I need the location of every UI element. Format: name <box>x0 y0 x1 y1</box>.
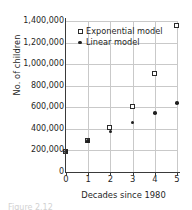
figure-scatter-chart: No. of children 0200,000400,000600,00080… <box>0 0 192 210</box>
y-tick-label: 1,400,000 <box>6 17 64 25</box>
x-tick-label: 0 <box>56 175 76 184</box>
x-tick-mark <box>133 172 134 176</box>
x-tick-mark <box>66 172 67 176</box>
y-tick-label: 600,000 <box>6 103 64 111</box>
data-point-linear <box>175 101 179 105</box>
x-tick-label: 5 <box>167 175 187 184</box>
gridline-horizontal <box>66 21 177 22</box>
gridline-horizontal <box>66 150 177 151</box>
gridline-horizontal <box>66 107 177 108</box>
x-tick-mark <box>88 172 89 176</box>
legend: Exponential model Linear model <box>74 26 163 48</box>
x-tick-label: 1 <box>78 175 98 184</box>
y-axis-line <box>65 18 66 173</box>
gridline-horizontal <box>66 129 177 130</box>
data-point-linear <box>86 139 90 143</box>
open-square-marker-icon <box>74 29 86 34</box>
x-axis-label: Decades since 1980 <box>55 190 192 200</box>
gridline-horizontal <box>66 64 177 65</box>
legend-label-exponential: Exponential model <box>86 26 163 37</box>
gridline-vertical <box>177 21 178 172</box>
data-point-linear <box>153 111 157 115</box>
y-tick-label: 800,000 <box>6 82 64 90</box>
legend-label-linear: Linear model <box>86 37 140 48</box>
x-tick-label: 3 <box>123 175 143 184</box>
data-point-exponential <box>174 23 179 28</box>
data-point-exponential <box>130 104 135 109</box>
y-tick-label: 400,000 <box>6 125 64 133</box>
y-tick-label: 200,000 <box>6 146 64 154</box>
data-point-linear <box>109 130 113 134</box>
legend-item-linear: Linear model <box>74 37 163 48</box>
legend-item-exponential: Exponential model <box>74 26 163 37</box>
data-point-linear <box>131 121 135 125</box>
y-tick-label: 1,200,000 <box>6 39 64 47</box>
x-axis-line <box>65 172 180 173</box>
y-tick-label: 1,000,000 <box>6 60 64 68</box>
figure-caption: Figure 2.12 <box>8 203 53 210</box>
x-tick-mark <box>110 172 111 176</box>
gridline-horizontal <box>66 86 177 87</box>
x-tick-label: 2 <box>100 175 120 184</box>
data-point-exponential <box>152 71 157 76</box>
x-tick-mark <box>177 172 178 176</box>
x-tick-label: 4 <box>145 175 165 184</box>
filled-circle-marker-icon <box>74 41 86 45</box>
y-axis-tick-labels: 0200,000400,000600,000800,0001,000,0001,… <box>4 0 64 210</box>
x-tick-mark <box>155 172 156 176</box>
